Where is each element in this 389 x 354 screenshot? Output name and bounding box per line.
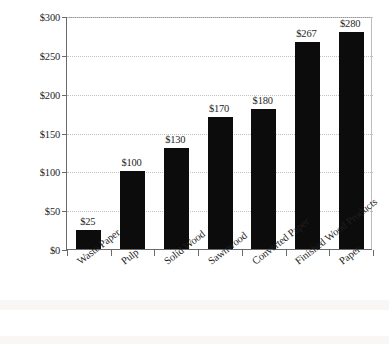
- y-axis-tick-label: $100: [14, 167, 60, 178]
- y-axis-tick-label: $150: [14, 128, 60, 139]
- y-axis-tick-label: $50: [14, 206, 60, 217]
- gridline: [67, 56, 373, 57]
- bar-value-label: $130: [151, 134, 199, 145]
- bar-value-label: $180: [239, 95, 287, 106]
- y-axis-tick: [62, 17, 67, 18]
- scan-artifact-band: [0, 300, 389, 310]
- y-axis-tick: [62, 211, 67, 212]
- bar-value-label: $100: [108, 157, 156, 168]
- x-axis-tick: [286, 250, 287, 256]
- bar-value-label: $280: [326, 18, 374, 29]
- x-axis-tick: [242, 250, 243, 256]
- bar: [251, 109, 276, 249]
- y-axis-tick-label: $250: [14, 50, 60, 61]
- y-axis-tick: [62, 95, 67, 96]
- bar: [208, 117, 233, 249]
- x-axis-tick: [329, 250, 330, 256]
- y-axis-tick-label: $200: [14, 89, 60, 100]
- x-axis-tick: [198, 250, 199, 256]
- y-axis-tick-label: $300: [14, 12, 60, 23]
- plot-area: [66, 17, 372, 250]
- x-axis-tick: [373, 250, 374, 256]
- y-axis-tick: [62, 172, 67, 173]
- bar-value-label: $25: [64, 216, 112, 227]
- bar-value-label: $170: [195, 103, 243, 114]
- bar-value-label: $267: [282, 28, 330, 39]
- bar: [120, 171, 145, 249]
- bar-chart-figure: US$billion $0$50$100$150$200$250$300 Was…: [0, 0, 389, 354]
- gridline: [67, 95, 373, 96]
- x-axis-tick: [154, 250, 155, 256]
- scan-artifact-band: [0, 336, 389, 344]
- y-axis-tick: [62, 56, 67, 57]
- bar: [164, 148, 189, 249]
- bar: [295, 42, 320, 249]
- y-axis-tick-label: $0: [14, 245, 60, 256]
- x-axis-tick: [67, 250, 68, 256]
- x-axis-tick: [111, 250, 112, 256]
- y-axis-tick: [62, 134, 67, 135]
